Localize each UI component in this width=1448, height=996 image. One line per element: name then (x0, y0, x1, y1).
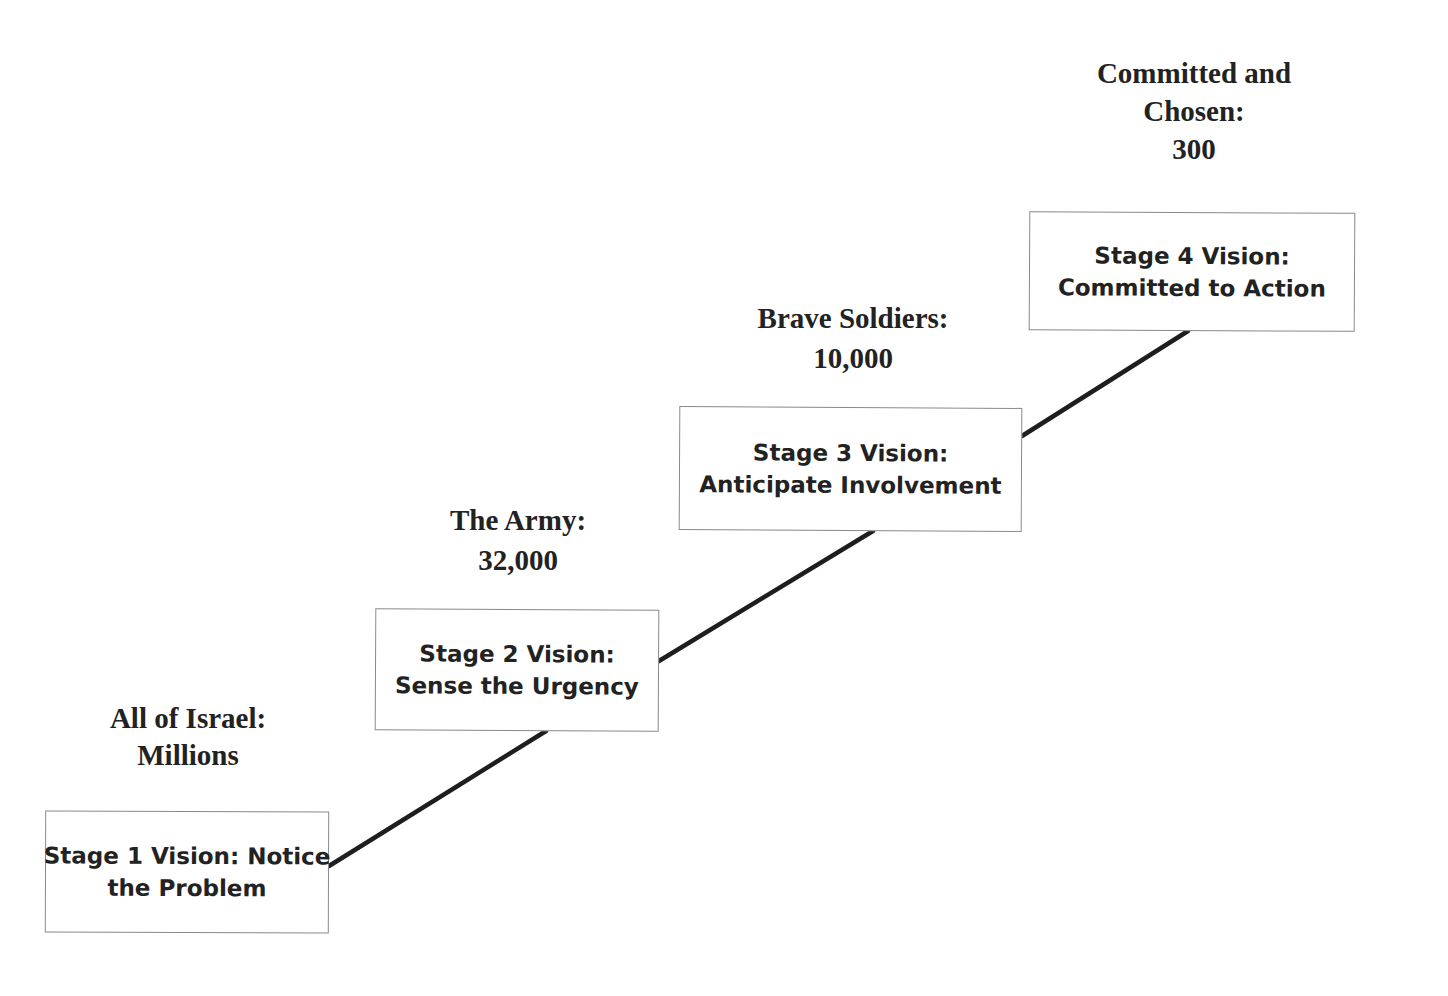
stage-4-caption: Committed and Chosen: 300 (1064, 54, 1324, 168)
stage-3-box: Stage 3 Vision: Anticipate Involvement (679, 406, 1023, 532)
connector-stage2-to-stage3 (659, 531, 873, 661)
stage-4-caption-group-line1: Committed and (1064, 54, 1324, 92)
stage-3-subtitle: Anticipate Involvement (699, 468, 1001, 502)
stage-1-subtitle: the Problem (44, 871, 331, 904)
stage-4-caption-group-line2: Chosen: (1064, 92, 1324, 130)
staircase-diagram: All of Israel: Millions Stage 1 Vision: … (0, 0, 1448, 996)
stage-2-title: Stage 2 Vision: (395, 637, 639, 670)
stage-1-title: Stage 1 Vision: Notice (44, 840, 331, 873)
stage-4-title: Stage 4 Vision: (1058, 239, 1326, 272)
stage-1-caption-group: All of Israel: (58, 700, 318, 737)
stage-1-caption-count: Millions (58, 737, 318, 774)
stage-3-caption-group: Brave Soldiers: (722, 298, 984, 338)
stage-2-box: Stage 2 Vision: Sense the Urgency (375, 608, 660, 731)
stage-2-caption: The Army: 32,000 (388, 500, 648, 580)
stage-4-box: Stage 4 Vision: Committed to Action (1029, 211, 1356, 332)
stage-3-title: Stage 3 Vision: (699, 436, 1001, 470)
stage-4-subtitle: Committed to Action (1058, 271, 1326, 304)
connector-stage3-to-stage4 (1022, 331, 1188, 436)
stage-1-box: Stage 1 Vision: Notice the Problem (45, 811, 329, 934)
stage-4-caption-count: 300 (1064, 130, 1324, 168)
connector-stage1-to-stage2 (329, 731, 546, 866)
stage-3-caption: Brave Soldiers: 10,000 (722, 298, 984, 378)
stage-1-caption: All of Israel: Millions (58, 700, 318, 774)
stage-2-caption-group: The Army: (388, 500, 648, 540)
stage-3-caption-count: 10,000 (722, 338, 984, 378)
stage-2-subtitle: Sense the Urgency (395, 669, 639, 702)
stage-2-caption-count: 32,000 (388, 540, 648, 580)
